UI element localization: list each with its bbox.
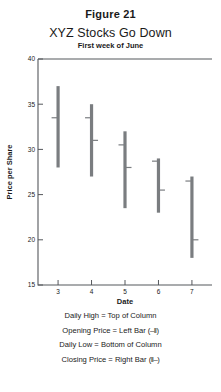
y-tick-label: 25 (28, 191, 36, 198)
y-tick-label: 15 (28, 281, 36, 288)
y-tick-label: 30 (28, 146, 36, 153)
legend-item: Daily Low = Bottom of Column (0, 341, 221, 349)
ohlc-bar (119, 131, 132, 208)
legend-item: Daily High = Top of Column (0, 312, 221, 320)
legend: Daily High = Top of Column Opening Price… (0, 312, 221, 363)
chart-subtitle: First week of June (0, 41, 221, 50)
legend-item: Opening Price = Left Bar (–‖) (0, 327, 221, 335)
ohlc-bar (152, 158, 165, 212)
x-axis-title: Date (117, 297, 133, 306)
ohlc-bar (52, 86, 59, 167)
legend-glyph: (‖–) (149, 355, 160, 364)
chart-title: XYZ Stocks Go Down (0, 26, 221, 40)
legend-item: Closing Price = Right Bar (‖–) (0, 356, 221, 364)
ohlc-bars (52, 86, 199, 258)
ohlc-bar (185, 177, 198, 258)
legend-glyph: (–‖) (148, 326, 159, 335)
y-tick-label: 40 (28, 55, 36, 62)
x-tick-label: 6 (157, 288, 161, 295)
plot-area: 403530252015 34567 Date Price per Share (0, 52, 221, 307)
x-axis-ticks: 34567 (56, 280, 194, 295)
ohlc-chart-svg: 403530252015 34567 Date Price per Share (0, 52, 221, 307)
figure-label: Figure 21 (0, 8, 221, 20)
y-axis-ticks: 403530252015 (28, 55, 43, 288)
legend-label: Daily High = Top of Column (64, 311, 156, 320)
ohlc-bar (85, 104, 98, 176)
y-axis-title: Price per Share (5, 144, 14, 199)
legend-label: Opening Price = Left Bar (62, 326, 147, 335)
y-tick-label: 20 (28, 236, 36, 243)
legend-label: Closing Price = Right Bar (62, 355, 149, 364)
x-tick-label: 4 (90, 288, 94, 295)
y-tick-label: 35 (28, 101, 36, 108)
x-tick-label: 7 (190, 288, 194, 295)
legend-label: Daily Low = Bottom of Column (59, 340, 161, 349)
x-tick-label: 3 (56, 288, 60, 295)
x-tick-label: 5 (123, 288, 127, 295)
